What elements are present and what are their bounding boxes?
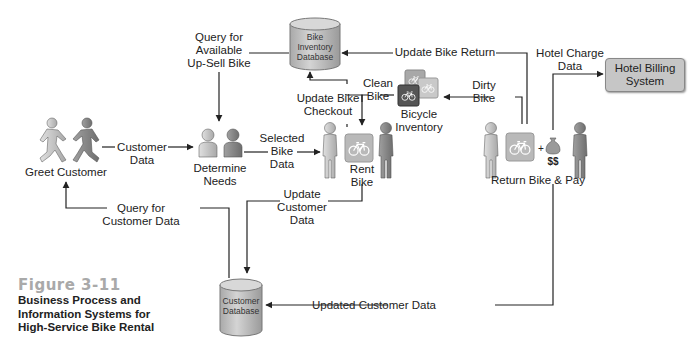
flow-query-upsell: Query for Available Up-Sell Bike: [187, 31, 250, 70]
determine-needs-label: Determine Needs: [193, 162, 246, 188]
flow-query-customer-data: Query for Customer Data: [102, 202, 179, 228]
bicycle-inventory-label: Bicycle Inventory: [395, 108, 442, 134]
money-label: $$: [547, 155, 558, 168]
flow-update-bike-checkout: Update Bike Checkout: [297, 92, 360, 118]
return-bike-pay-icon: [484, 123, 587, 179]
flow-update-customer-data: Update Customer Data: [277, 188, 327, 227]
flow-selected-bike-data: Selected Bike Data: [260, 132, 305, 171]
money-bag-icon: [546, 138, 560, 154]
flow-customer-data: Customer Data: [117, 141, 167, 167]
return-bike-pay-label: Return Bike & Pay: [491, 174, 585, 187]
flow-clean-bike: Clean Bike: [363, 77, 393, 103]
figure-title: Figure 3-11: [18, 276, 121, 294]
rent-bike-label: Rent Bike: [350, 163, 374, 189]
greet-customer-label: Greet Customer: [25, 166, 107, 179]
plus-sign: +: [538, 142, 544, 155]
bicycle-inventory-icon: [398, 70, 438, 106]
flow-dirty-bike: Dirty Bike: [472, 79, 496, 105]
determine-needs-icon: [199, 129, 242, 157]
greet-customer-icon: [40, 118, 99, 162]
hotel-billing-system: Hotel Billing System: [605, 58, 685, 92]
customer-database-label: Customer Database: [223, 296, 260, 316]
flow-update-bike-return: Update Bike Return: [395, 46, 495, 59]
flow-hotel-charge-data: Hotel Charge Data: [536, 47, 604, 73]
flow-updated-customer-data: Updated Customer Data: [312, 299, 436, 312]
bike-inventory-database-label: Bike Inventory Database: [297, 32, 333, 62]
figure-caption: Business Process and Information Systems…: [18, 294, 154, 335]
